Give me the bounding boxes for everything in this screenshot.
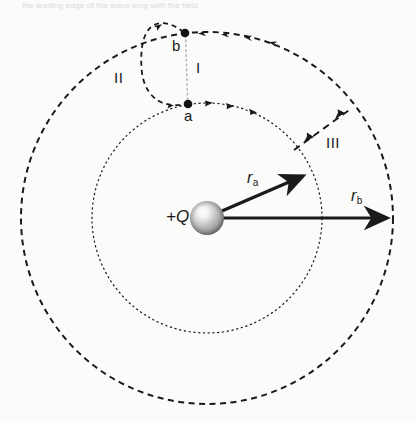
- vector-label-r-a-sub: a: [253, 177, 259, 188]
- path-label-III: III: [326, 135, 340, 150]
- point-charge-sphere-shading: [190, 201, 224, 235]
- physics-diagram-point-charge: the leading edge of the wave long with t…: [0, 0, 416, 422]
- vector-label-r-a-main: r: [247, 169, 252, 186]
- vector-label-r-b-sub: b: [357, 195, 363, 206]
- vector-label-r-b-main: r: [351, 187, 356, 204]
- path-II-loop: [141, 23, 186, 105]
- path-I-radial: [186, 36, 188, 102]
- outer-circle-direction-arrows: [198, 31, 277, 47]
- vector-label-r-b: rb: [351, 188, 362, 204]
- point-label-b: b: [172, 38, 180, 53]
- point-label-a: a: [184, 108, 192, 123]
- inner-circle-direction-arrows: [205, 101, 257, 115]
- path-III-radial: [294, 108, 352, 150]
- point-b-dot: [181, 29, 190, 38]
- diagram-canvas: [0, 0, 416, 422]
- path-label-I: I: [196, 60, 201, 75]
- charge-label: +Q: [166, 208, 189, 225]
- vector-label-r-a: ra: [247, 170, 258, 186]
- path-label-II: II: [114, 70, 123, 85]
